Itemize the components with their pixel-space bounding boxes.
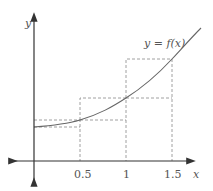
tick-1: 1 xyxy=(123,168,130,181)
y-axis-label: y xyxy=(24,17,32,30)
curve-label: y = f(x) xyxy=(143,37,185,50)
tick-1.5: 1.5 xyxy=(164,168,182,181)
rect-0.5-1 xyxy=(80,98,126,161)
dashed-rectangles xyxy=(34,59,172,161)
riemann-diagram: y x y = f(x) 0.5 1 1.5 xyxy=(0,0,213,191)
rect-1-1.5 xyxy=(126,59,172,161)
x-axis-label: x xyxy=(193,168,200,181)
tick-0.5: 0.5 xyxy=(74,168,92,181)
